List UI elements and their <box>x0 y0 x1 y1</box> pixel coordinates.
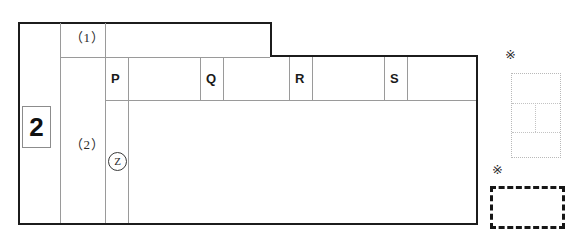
circled-z-marker: Z <box>108 152 127 171</box>
answer-cell-divider-r-left <box>289 57 290 100</box>
answer-area-s[interactable] <box>409 58 475 99</box>
column-rule-subitem <box>105 23 106 223</box>
reference-mark-icon-2: ※ <box>492 163 503 176</box>
annotation-box-1-rule-upper <box>512 103 560 104</box>
answer-area-sub2-main[interactable] <box>130 101 475 222</box>
answer-area-q[interactable] <box>225 58 288 99</box>
table-border-bottom <box>18 223 478 225</box>
sub-item-label-1: （1） <box>70 31 104 44</box>
answer-cell-divider-p-right <box>128 57 129 100</box>
annotation-box-2 <box>490 186 565 229</box>
worksheet-page: 2 （1） （2） P Q R S Z ※ ※ <box>0 0 576 249</box>
sub-item-label-2: （2） <box>70 138 104 151</box>
circled-z-letter: Z <box>114 156 121 167</box>
answer-cell-label-p[interactable]: P <box>111 72 120 85</box>
answer-cell-divider-s-left <box>384 57 385 100</box>
answer-cell-divider-s-right <box>407 57 408 100</box>
table-border-right <box>476 55 478 225</box>
table-border-step-vertical <box>270 22 272 57</box>
answer-cell-divider-q-left <box>200 57 201 100</box>
annotation-box-1-rule-vertical <box>535 103 536 132</box>
table-border-top-right <box>270 55 478 57</box>
reference-mark-icon-1: ※ <box>505 48 516 61</box>
answer-table: 2 （1） （2） P Q R S Z <box>0 0 490 249</box>
answer-cell-divider-q-right <box>223 57 224 100</box>
answer-area-p[interactable] <box>130 58 199 99</box>
answer-area-sub1[interactable] <box>107 24 269 56</box>
table-border-left <box>18 22 20 225</box>
annotation-box-1-rule-lower <box>512 132 560 133</box>
answer-cell-divider-r-right <box>312 57 313 100</box>
annotation-column: ※ ※ <box>490 0 576 249</box>
answer-cell-label-q[interactable]: Q <box>206 72 216 85</box>
annotation-box-1 <box>511 73 561 158</box>
question-number-box: 2 <box>22 106 51 148</box>
question-number-value: 2 <box>29 114 43 140</box>
answer-cell-label-r[interactable]: R <box>295 72 304 85</box>
column-rule-qnum <box>60 23 61 223</box>
answer-cell-label-s[interactable]: S <box>390 72 399 85</box>
answer-area-r[interactable] <box>314 58 383 99</box>
